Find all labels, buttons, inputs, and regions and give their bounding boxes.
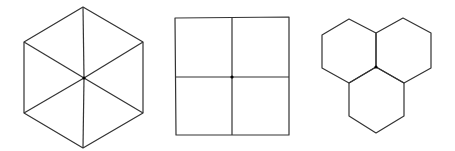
square-center-vertex [230, 75, 233, 78]
hexagon-spoke [84, 78, 143, 113]
hexagon-figure [24, 7, 143, 148]
hexagon-top-right [376, 18, 431, 83]
hexagon-spoke [83, 7, 84, 78]
hexagon-spoke [84, 42, 143, 78]
hexagon-spoke [83, 78, 84, 148]
three-hexagons-shared-vertex [374, 65, 377, 68]
hexagon-top-left [322, 19, 376, 83]
hexagon-spoke [24, 78, 84, 113]
diagram-canvas [0, 0, 455, 151]
hexagon-center-vertex [82, 76, 85, 79]
hexagon-bottom [349, 67, 404, 133]
hexagon-spoke [24, 42, 84, 78]
square-figure [175, 17, 289, 135]
three-hexagons-figure [322, 18, 431, 133]
